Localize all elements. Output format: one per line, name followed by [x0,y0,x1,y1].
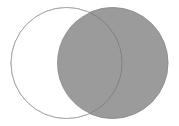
venn-circle-right [57,8,168,119]
venn-diagram-figure [0,0,179,126]
venn-diagram-canvas [0,0,179,126]
